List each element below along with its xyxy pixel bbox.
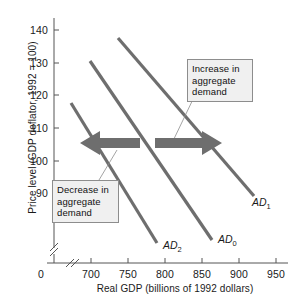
chart-canvas: [0, 0, 295, 299]
x-tick-label-900: 900: [224, 268, 254, 280]
origin-label: 0: [38, 268, 44, 280]
x-axis-ticks: [91, 258, 276, 263]
callout-increase-aggregate-demand: Increase in aggregate demand: [187, 59, 253, 102]
callout-decrease-aggregate-demand: Decrease in aggregate demand: [52, 180, 119, 223]
x-tick-label-700: 700: [76, 268, 106, 280]
x-tick-label-950: 950: [261, 268, 291, 280]
y-axis-title: Price level (GDP deflator, 1992 = 100): [27, 33, 38, 223]
curve-label-ad0: AD0: [218, 233, 237, 248]
x-tick-label-800: 800: [150, 268, 180, 280]
curve-label-ad1-sub: 1: [267, 202, 271, 211]
curve-label-ad1-base: AD: [252, 196, 267, 208]
x-tick-label-850: 850: [187, 268, 217, 280]
curve-label-ad0-sub: 0: [233, 239, 237, 248]
increase-shift-arrow: [155, 131, 222, 155]
curve-label-ad2-sub: 2: [178, 245, 182, 254]
curve-label-ad2-base: AD: [163, 239, 178, 251]
x-tick-label-750: 750: [113, 268, 143, 280]
aggregate-demand-chart: 140 130 120 110 100 90 0 700 750 800 850…: [0, 0, 295, 299]
curve-label-ad1: AD1: [252, 196, 271, 211]
curve-label-ad0-base: AD: [218, 233, 233, 245]
x-axis-title: Real GDP (billions of 1992 dollars): [60, 283, 290, 294]
y-axis-ticks: [54, 30, 59, 193]
curve-label-ad2: AD2: [163, 239, 182, 254]
